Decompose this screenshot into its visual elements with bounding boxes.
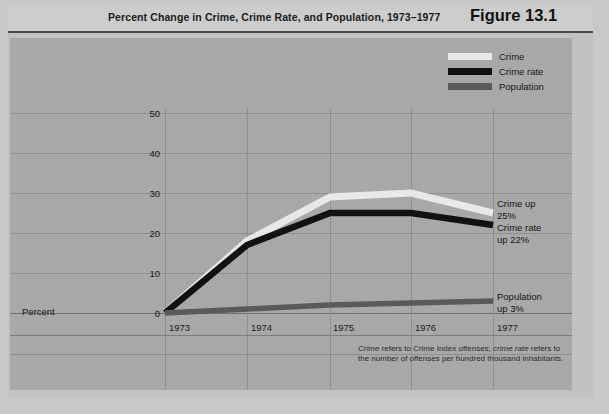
legend-swatch-crime-rate xyxy=(448,68,492,75)
page-title: Percent Change in Crime, Crime Rate, and… xyxy=(108,11,440,23)
legend-label-population: Population xyxy=(499,82,544,92)
y-tick-50: 50 xyxy=(138,108,160,119)
legend-item-crime-rate: Crime rate xyxy=(448,65,588,78)
y-axis-title: Percent xyxy=(22,306,55,317)
annotation-crime: Crime up 25% xyxy=(497,198,536,221)
annotation-population-line1: Population xyxy=(497,291,542,303)
legend-label-crime: Crime xyxy=(499,52,524,62)
y-tick-30: 30 xyxy=(138,188,160,199)
annotation-population-line2: up 3% xyxy=(497,303,542,315)
annotation-crime-line2: 25% xyxy=(497,210,536,222)
figure-number: Figure 13.1 xyxy=(470,6,557,25)
y-tick-10: 10 xyxy=(138,268,160,279)
chart-footnote: Crime refers to Crime Index offenses; cr… xyxy=(358,344,568,363)
y-tick-0: 0 xyxy=(138,308,160,319)
annotation-crime-rate-line1: Crime rate xyxy=(497,222,541,234)
y-tick-40: 40 xyxy=(138,148,160,159)
x-tick-1973: 1973 xyxy=(169,322,190,333)
footnote-text-1: refers to Crime Index offenses; xyxy=(379,344,493,353)
figure-page: Percent Change in Crime, Crime Rate, and… xyxy=(0,0,609,414)
chart-legend: Crime Crime rate Population xyxy=(448,50,588,95)
x-tick-1976: 1976 xyxy=(415,322,436,333)
legend-label-crime-rate: Crime rate xyxy=(499,67,543,77)
legend-swatch-population xyxy=(448,83,492,90)
horizontal-gridlines xyxy=(10,114,572,274)
y-tick-20: 20 xyxy=(138,228,160,239)
title-divider xyxy=(8,31,593,33)
legend-item-population: Population xyxy=(448,80,588,93)
footnote-emphasis-crime-rate: crime rate xyxy=(493,344,529,353)
legend-swatch-crime xyxy=(448,53,492,60)
annotation-crime-rate-line2: up 22% xyxy=(497,234,541,246)
series-line-crime-rate xyxy=(165,213,493,313)
annotation-crime-line1: Crime up xyxy=(497,198,536,210)
footnote-emphasis-crime: Crime xyxy=(358,344,379,353)
x-tick-1977: 1977 xyxy=(497,322,518,333)
series-line-population xyxy=(165,301,493,313)
annotation-population: Population up 3% xyxy=(497,291,542,314)
annotation-crime-rate: Crime rate up 22% xyxy=(497,222,541,245)
x-tick-1975: 1975 xyxy=(333,322,354,333)
legend-item-crime: Crime xyxy=(448,50,588,63)
x-tick-1974: 1974 xyxy=(251,322,272,333)
